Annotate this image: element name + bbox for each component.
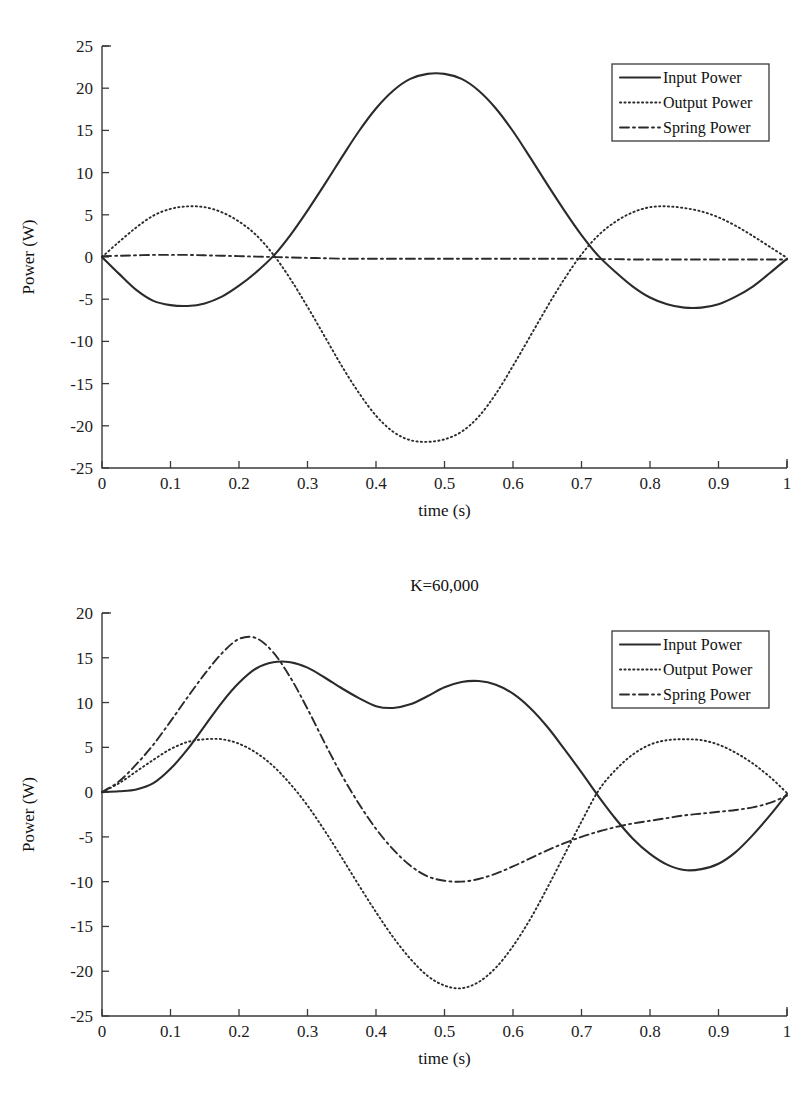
y-tick-label: 5 [85, 738, 94, 757]
y-tick-label: -5 [79, 290, 93, 309]
series-line-spring-power [102, 255, 787, 260]
y-axis-label: Power (W) [19, 777, 38, 852]
x-tick-label: 0.4 [365, 1022, 387, 1041]
y-axis-label: Power (W) [19, 219, 38, 294]
y-tick-label: -5 [79, 828, 93, 847]
x-axis-label: time (s) [418, 501, 470, 520]
x-tick-label: 0.5 [434, 474, 455, 493]
x-tick-label: 0 [98, 1022, 107, 1041]
y-tick-label: -10 [70, 873, 93, 892]
legend-label-input-power: Input Power [663, 636, 742, 654]
y-tick-label: -25 [70, 1007, 93, 1026]
x-tick-label: 0.9 [708, 474, 729, 493]
power-chart-bottom: K=60,00020151050-5-10-15-20-2500.10.20.3… [0, 551, 811, 1103]
x-tick-label: 0 [98, 474, 107, 493]
chart-title: K=60,000 [410, 576, 479, 595]
y-tick-label: -20 [70, 962, 93, 981]
x-axis-label: time (s) [418, 1049, 470, 1068]
legend-label-output-power: Output Power [663, 94, 753, 112]
y-tick-label: -25 [70, 459, 93, 478]
x-tick-label: 1 [783, 1022, 792, 1041]
legend-label-spring-power: Spring Power [663, 119, 751, 137]
y-tick-label: 0 [85, 783, 94, 802]
x-tick-label: 0.8 [639, 1022, 660, 1041]
y-tick-label: 10 [76, 164, 93, 183]
x-tick-label: 0.1 [160, 1022, 181, 1041]
x-tick-label: 0.2 [228, 474, 249, 493]
series-line-output-power [102, 206, 787, 442]
x-tick-label: 0.3 [297, 474, 318, 493]
y-tick-label: 10 [76, 694, 93, 713]
x-tick-label: 0.7 [571, 1022, 593, 1041]
figure-bottom: K=60,00020151050-5-10-15-20-2500.10.20.3… [0, 551, 811, 1103]
x-tick-label: 0.3 [297, 1022, 318, 1041]
x-tick-label: 0.8 [639, 474, 660, 493]
figure-top: 2520151050-5-10-15-20-2500.10.20.30.40.5… [0, 0, 811, 551]
x-tick-label: 0.6 [502, 474, 523, 493]
legend-label-output-power: Output Power [663, 661, 753, 679]
y-tick-label: -15 [70, 917, 93, 936]
legend-label-input-power: Input Power [663, 69, 742, 87]
x-tick-label: 0.9 [708, 1022, 729, 1041]
x-tick-label: 1 [783, 474, 792, 493]
y-tick-label: 5 [85, 206, 94, 225]
x-tick-label: 0.1 [160, 474, 181, 493]
y-tick-label: 15 [76, 649, 93, 668]
y-tick-label: -10 [70, 332, 93, 351]
x-tick-label: 0.7 [571, 474, 593, 493]
x-tick-label: 0.6 [502, 1022, 523, 1041]
legend-label-spring-power: Spring Power [663, 686, 751, 704]
y-tick-label: 25 [76, 37, 93, 56]
x-tick-label: 0.4 [365, 474, 387, 493]
x-tick-label: 0.5 [434, 1022, 455, 1041]
y-tick-label: 20 [76, 79, 93, 98]
y-tick-label: 20 [76, 604, 93, 623]
series-line-output-power [102, 739, 787, 989]
y-tick-label: 15 [76, 121, 93, 140]
y-tick-label: -20 [70, 417, 93, 436]
y-tick-label: -15 [70, 375, 93, 394]
x-tick-label: 0.2 [228, 1022, 249, 1041]
power-chart-top: 2520151050-5-10-15-20-2500.10.20.30.40.5… [0, 0, 811, 551]
y-tick-label: 0 [85, 248, 94, 267]
